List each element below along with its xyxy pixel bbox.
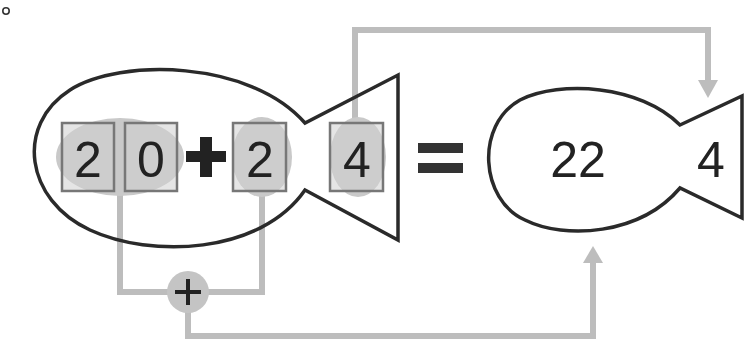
digit-addend: 2 xyxy=(246,132,274,188)
result-body-value: 22 xyxy=(550,132,606,188)
digit-ones: 0 xyxy=(137,132,165,188)
sum-arrow-head-icon xyxy=(583,246,603,263)
result-tail-digit: 4 xyxy=(697,132,725,188)
sum-connector-lines xyxy=(120,190,593,336)
fish-addition-diagram: 2 0 2 4 22 4 xyxy=(0,0,752,355)
tail-arrow-head-icon xyxy=(698,80,718,98)
digit-tens: 2 xyxy=(74,132,102,188)
plus-operator-icon xyxy=(186,137,226,177)
digit-tail: 4 xyxy=(343,132,371,188)
corner-mark xyxy=(3,8,9,14)
equals-sign-icon xyxy=(418,143,463,173)
